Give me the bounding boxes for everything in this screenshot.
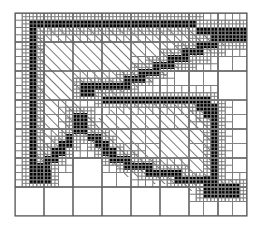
mesh-svg-canvas (0, 0, 263, 235)
mesh-figure (0, 0, 263, 235)
